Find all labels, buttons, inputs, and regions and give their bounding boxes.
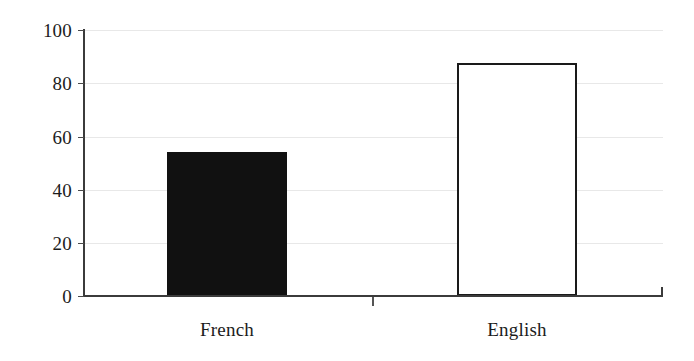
x-category-tick: [372, 297, 374, 306]
x-axis-end-tick: [661, 287, 663, 296]
y-tick-40: [78, 190, 84, 191]
bar-english: [457, 63, 577, 296]
y-tick-label-80: 80: [12, 74, 72, 93]
y-tick-label-0: 0: [12, 287, 72, 306]
y-tick-80: [78, 83, 84, 84]
y-tick-20: [78, 243, 84, 244]
x-tick-label-english: English: [417, 319, 617, 342]
y-tick-label-60: 60: [12, 128, 72, 147]
plot-area: [84, 30, 663, 296]
bar-french: [167, 152, 287, 296]
gridline-100: [84, 30, 663, 31]
bar-chart: 100 80 60 40 20 0 French English: [0, 0, 694, 361]
y-tick-label-20: 20: [12, 234, 72, 253]
y-tick-0: [78, 296, 84, 297]
y-tick-label-100: 100: [12, 21, 72, 40]
y-axis-line: [83, 29, 85, 297]
x-tick-label-french: French: [127, 319, 327, 342]
y-tick-60: [78, 137, 84, 138]
y-tick-label-40: 40: [12, 181, 72, 200]
y-tick-100: [78, 30, 84, 31]
